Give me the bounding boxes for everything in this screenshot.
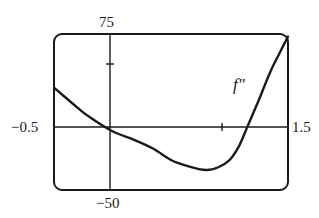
y-max-label: 75 bbox=[99, 15, 114, 30]
chart-canvas bbox=[0, 0, 319, 218]
curve-label: f″ bbox=[233, 76, 245, 93]
x-max-label: 1.5 bbox=[292, 120, 311, 135]
f-double-prime-curve bbox=[54, 37, 288, 171]
y-min-label: −50 bbox=[96, 196, 119, 211]
x-min-label: −0.5 bbox=[11, 120, 38, 135]
